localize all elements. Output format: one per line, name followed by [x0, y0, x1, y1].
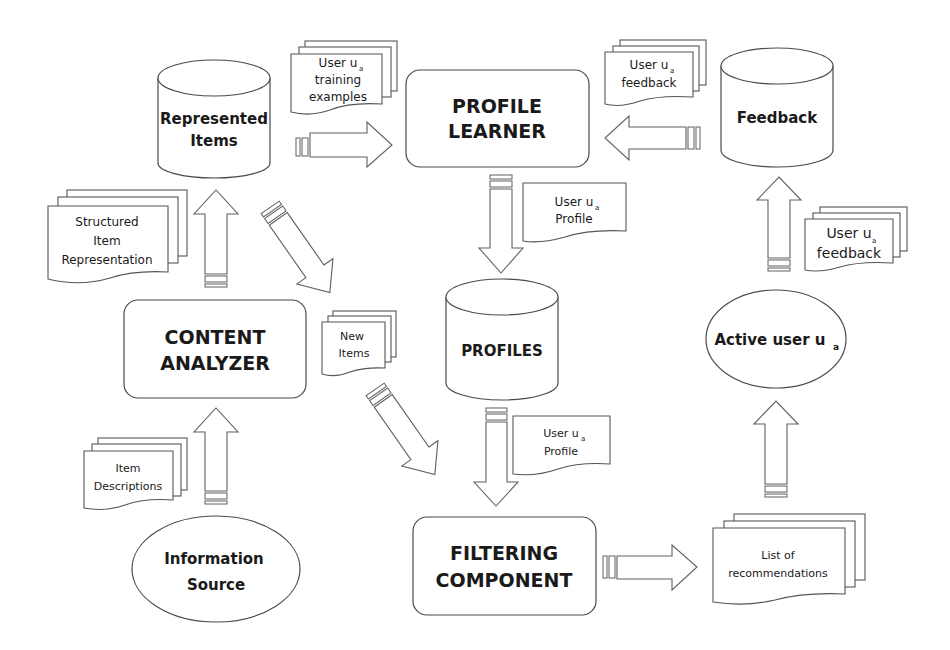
feedback-right-sub: a — [872, 237, 876, 245]
recommendations-document: List of recommendations — [713, 514, 865, 604]
represented-items-label-2: Items — [190, 132, 238, 150]
feedback-top-sub: a — [670, 67, 674, 75]
arrow-user-to-feedback — [757, 177, 801, 271]
feedback-store-label: Feedback — [737, 109, 818, 127]
structured-item-line1: Structured — [75, 215, 138, 229]
feedback-top-document: User u a feedback — [605, 40, 706, 105]
training-doc-sub: a — [359, 65, 363, 73]
active-user-actor: Active user u a — [706, 290, 846, 388]
arrow-filtering-to-recommendations — [603, 545, 697, 590]
training-doc-line1: User u — [319, 56, 358, 70]
filtering-component-box: FILTERING COMPONENT — [413, 517, 596, 615]
feedback-store: Feedback — [721, 48, 833, 167]
item-descriptions-document: Item Descriptions — [84, 438, 187, 509]
profile-bottom-document: User u a Profile — [513, 416, 610, 475]
item-descriptions-line1: Item — [115, 462, 140, 475]
item-descriptions-line2: Descriptions — [94, 480, 163, 493]
recommendations-line2: recommendations — [728, 567, 828, 580]
content-analyzer-label-2: ANALYZER — [160, 352, 270, 374]
new-items-document: New Items — [322, 311, 396, 376]
new-items-line1: New — [340, 330, 364, 343]
information-source-actor: Information Source — [132, 516, 300, 622]
profile-learner-box: PROFILE LEARNER — [406, 70, 589, 167]
feedback-top-line2: feedback — [621, 76, 676, 90]
profiles-store-label: PROFILES — [461, 342, 543, 360]
feedback-right-document: User u a feedback — [805, 207, 907, 271]
filtering-label-1: FILTERING — [450, 542, 558, 564]
active-user-label: Active user u — [714, 331, 825, 349]
profile-learner-label-1: PROFILE — [452, 95, 542, 117]
profile-bottom-line1: User u — [543, 427, 579, 440]
feedback-right-line2: feedback — [817, 245, 882, 261]
profile-learner-label-2: LEARNER — [448, 120, 546, 142]
arrow-feedback-to-learner — [605, 116, 700, 160]
profile-bottom-line2: Profile — [544, 445, 578, 458]
arrow-items-to-new-items — [252, 195, 348, 305]
represented-items-store: Represented Items — [158, 60, 270, 178]
information-source-label-2: Source — [187, 576, 245, 594]
arrow-recommendations-to-user — [754, 401, 798, 497]
structured-item-line2: Item — [93, 234, 120, 248]
profile-top-line1: User u — [555, 195, 594, 209]
profile-bottom-sub: a — [581, 435, 585, 443]
arrow-learner-to-profiles — [479, 175, 523, 273]
arrow-new-items-to-filtering — [357, 377, 453, 487]
active-user-sub: a — [833, 342, 839, 352]
content-analyzer-box: CONTENT ANALYZER — [124, 300, 306, 398]
feedback-top-line1: User u — [630, 58, 669, 72]
profile-top-line2: Profile — [555, 212, 592, 226]
content-analyzer-label-1: CONTENT — [165, 326, 266, 348]
arrow-items-to-learner — [296, 122, 392, 167]
profile-top-sub: a — [595, 204, 599, 212]
training-doc-line2: training — [315, 73, 362, 87]
arrow-profiles-to-filtering — [474, 408, 518, 506]
structured-item-line3: Representation — [61, 253, 152, 267]
recommendations-line1: List of — [761, 549, 795, 562]
profiles-store: PROFILES — [446, 279, 558, 400]
training-doc-line3: examples — [309, 90, 367, 104]
represented-items-label-1: Represented — [160, 110, 268, 128]
information-source-label-1: Information — [164, 550, 264, 568]
diagram-canvas: Represented Items User u a training exam… — [0, 0, 950, 650]
filtering-label-2: COMPONENT — [436, 569, 573, 591]
arrow-source-to-analyzer — [194, 408, 238, 504]
training-examples-document: User u a training examples — [291, 41, 397, 114]
feedback-right-line1: User u — [826, 225, 871, 241]
profile-top-document: User u a Profile — [523, 183, 626, 242]
arrow-analyzer-to-items — [194, 190, 238, 287]
structured-item-document: Structured Item Representation — [48, 190, 187, 283]
new-items-line2: Items — [339, 347, 370, 360]
